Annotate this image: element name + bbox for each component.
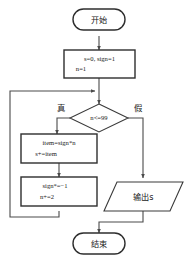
connector-true-branch [57, 118, 70, 134]
true-branch-label: 真 [57, 103, 65, 113]
end-node-label: 结束 [91, 239, 107, 249]
connector-output-to-end [99, 211, 143, 233]
accumulate-node-line2: s+=item [35, 150, 58, 157]
step-node-line2: n+=2 [40, 193, 54, 200]
flowchart-canvas: 开始 s=0, sign=1 n=1 n<=99 真 假 item=sign*n… [0, 0, 191, 268]
init-node-line2: n=1 [76, 65, 86, 72]
flowchart-svg: 开始 s=0, sign=1 n=1 n<=99 真 假 item=sign*n… [0, 0, 191, 268]
connector-false-branch [128, 118, 143, 178]
output-node-label: 输出s [133, 192, 153, 202]
init-node-line1: s=0, sign=1 [84, 55, 115, 62]
decision-node-label: n<=99 [90, 114, 108, 121]
start-node-label: 开始 [91, 15, 107, 25]
false-branch-label: 假 [134, 103, 143, 113]
step-node-line1: sign*=−1 [42, 182, 67, 189]
accumulate-node-line1: item=sign*n [42, 139, 76, 146]
